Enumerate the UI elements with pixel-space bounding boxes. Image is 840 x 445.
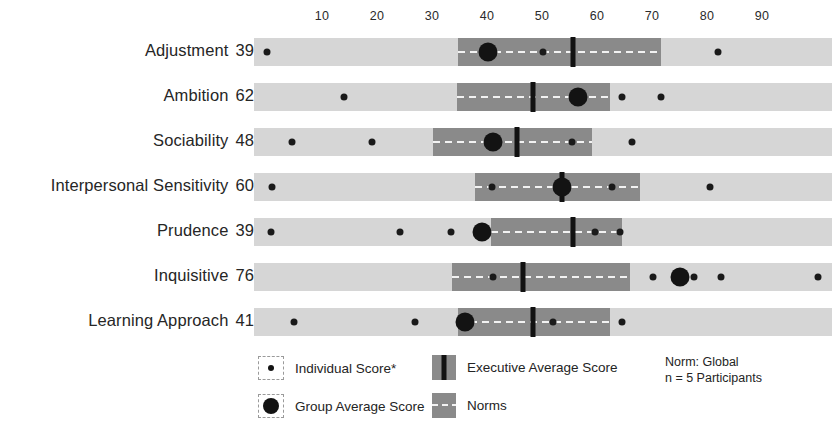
axis-tick-80: 80 xyxy=(700,9,714,23)
individual-score-dot xyxy=(569,139,576,146)
norm-note-line-2: n = 5 Participants xyxy=(665,370,762,386)
individual-score-dot xyxy=(397,229,404,236)
scale-score: 39 xyxy=(235,41,254,59)
individual-score-dot xyxy=(291,319,298,326)
norms-band-icon xyxy=(432,393,456,418)
scale-name: Inquisitive xyxy=(154,266,228,284)
scale-score: 39 xyxy=(235,221,254,239)
axis-tick-60: 60 xyxy=(590,9,604,23)
axis-tick-20: 20 xyxy=(370,9,384,23)
scale-label: Ambition62 xyxy=(163,86,254,105)
group-average-dot xyxy=(569,88,588,107)
scale-track xyxy=(254,218,832,246)
axis-tick-70: 70 xyxy=(645,9,659,23)
scale-track xyxy=(254,38,832,66)
scale-track xyxy=(254,308,832,336)
scale-score: 60 xyxy=(235,176,254,194)
group-average-dot-icon xyxy=(258,394,284,418)
group-average-dot xyxy=(553,178,572,197)
executive-average-marker xyxy=(531,307,536,337)
individual-score-dot xyxy=(269,184,276,191)
executive-average-marker xyxy=(515,127,520,157)
scale-track xyxy=(254,263,832,291)
group-average-dot xyxy=(456,313,475,332)
norms-midline xyxy=(452,276,630,278)
legend-item-executive-average-score: Executive Average Score xyxy=(432,355,618,380)
scale-row: Ambition62 xyxy=(0,83,840,111)
individual-score-dot xyxy=(540,49,547,56)
scale-row: Interpersonal Sensitivity60 xyxy=(0,173,840,201)
legend-label-individual-score: Individual Score* xyxy=(295,361,396,376)
scale-name: Adjustment xyxy=(145,41,229,59)
scale-row: Learning Approach41 xyxy=(0,308,840,336)
individual-score-dot xyxy=(609,184,616,191)
group-average-dot xyxy=(473,223,492,242)
individual-score-dot xyxy=(412,319,419,326)
scale-name: Prudence xyxy=(157,221,228,239)
chart-legend: Individual Score* Group Average Score Ex… xyxy=(0,350,840,445)
individual-score-dot xyxy=(658,94,665,101)
legend-label-executive-average-score: Executive Average Score xyxy=(467,360,618,375)
individual-score-dot xyxy=(617,229,624,236)
individual-score-dot xyxy=(718,274,725,281)
individual-score-dot xyxy=(490,274,497,281)
axis-tick-90: 90 xyxy=(755,9,769,23)
individual-score-dot xyxy=(707,184,714,191)
scale-track xyxy=(254,173,832,201)
individual-score-dot xyxy=(550,319,557,326)
individual-score-dot xyxy=(268,229,275,236)
individual-score-dot xyxy=(264,49,271,56)
scale-label: Adjustment39 xyxy=(145,41,254,60)
individual-score-dot xyxy=(691,274,698,281)
scale-name: Learning Approach xyxy=(88,311,228,329)
legend-item-norms: Norms xyxy=(432,393,507,418)
scale-name: Interpersonal Sensitivity xyxy=(51,176,229,194)
axis-tick-40: 40 xyxy=(480,9,494,23)
individual-score-dot xyxy=(629,139,636,146)
scale-row: Prudence39 xyxy=(0,218,840,246)
individual-score-dot xyxy=(489,184,496,191)
norms-midline xyxy=(491,231,622,233)
group-average-dot xyxy=(484,133,503,152)
legend-label-group-average-score: Group Average Score xyxy=(295,399,425,414)
scale-track xyxy=(254,83,832,111)
scale-track xyxy=(254,128,832,156)
individual-score-dot xyxy=(650,274,657,281)
scale-row: Inquisitive76 xyxy=(0,263,840,291)
individual-score-dot xyxy=(289,139,296,146)
executive-average-marker xyxy=(521,262,526,292)
individual-score-dot xyxy=(369,139,376,146)
individual-score-dot xyxy=(448,229,455,236)
scale-label: Prudence39 xyxy=(157,221,254,240)
scale-name: Sociability xyxy=(153,131,228,149)
scale-label: Sociability48 xyxy=(153,131,254,150)
executive-average-marker xyxy=(571,37,576,67)
chart-x-axis: 102030405060708090 xyxy=(0,0,840,30)
axis-tick-50: 50 xyxy=(535,9,549,23)
individual-score-dot xyxy=(592,229,599,236)
individual-score-dot xyxy=(619,94,626,101)
norm-note-line-1: Norm: Global xyxy=(665,354,762,370)
scale-label: Interpersonal Sensitivity60 xyxy=(51,176,254,195)
scale-name: Ambition xyxy=(163,86,228,104)
norm-note: Norm: Global n = 5 Participants xyxy=(665,354,762,386)
executive-average-band-icon xyxy=(432,355,456,380)
scale-score: 62 xyxy=(235,86,254,104)
individual-score-dot-icon xyxy=(258,356,284,380)
executive-average-marker xyxy=(571,217,576,247)
scale-score: 48 xyxy=(235,131,254,149)
scale-score: 41 xyxy=(235,311,254,329)
group-average-dot xyxy=(479,43,498,62)
scale-label: Inquisitive76 xyxy=(154,266,254,285)
individual-score-dot xyxy=(341,94,348,101)
axis-tick-30: 30 xyxy=(425,9,439,23)
individual-score-dot xyxy=(619,319,626,326)
assessment-profile-chart: 102030405060708090 Individual Score* Gro… xyxy=(0,0,840,445)
individual-score-dot xyxy=(715,49,722,56)
scale-score: 76 xyxy=(235,266,254,284)
group-average-dot xyxy=(671,268,690,287)
legend-item-individual-score: Individual Score* xyxy=(258,356,396,380)
executive-average-marker xyxy=(531,82,536,112)
scale-row: Adjustment39 xyxy=(0,38,840,66)
scale-label: Learning Approach41 xyxy=(88,311,254,330)
